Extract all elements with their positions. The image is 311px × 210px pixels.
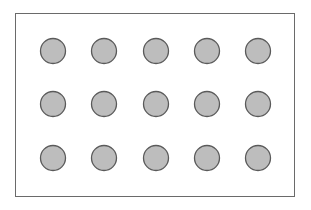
circle-r1-c3 [144, 39, 169, 64]
circle-r3-c2 [92, 146, 117, 171]
circle-r3-c1 [41, 146, 66, 171]
circle-r1-c5 [246, 39, 271, 64]
circle-r2-c5 [246, 92, 271, 117]
circle-r2-c1 [41, 92, 66, 117]
circle-grid [0, 0, 311, 210]
circle-r2-c4 [195, 92, 220, 117]
circle-r1-c2 [92, 39, 117, 64]
circle-r3-c4 [195, 146, 220, 171]
circle-r3-c5 [246, 146, 271, 171]
circle-r3-c3 [144, 146, 169, 171]
circle-r2-c2 [92, 92, 117, 117]
circle-r1-c4 [195, 39, 220, 64]
circle-r1-c1 [41, 39, 66, 64]
circle-r2-c3 [144, 92, 169, 117]
